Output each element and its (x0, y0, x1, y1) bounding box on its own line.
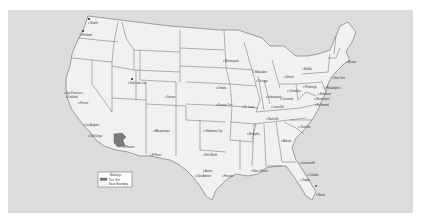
legend-swatch-test-site (100, 178, 107, 181)
legend-label-base-boundary: Base Boundary (109, 182, 129, 186)
city-label: Pittsburgh (305, 85, 317, 89)
city-label: Seattle (90, 21, 99, 25)
city-label: Austin (205, 169, 213, 173)
city-label: Columbus (289, 89, 301, 93)
city-label: Denver (167, 95, 175, 99)
city-label: Minneapolis (225, 59, 240, 63)
city-label: Salt Lake City (130, 81, 147, 85)
city-label: Tampa (302, 178, 310, 182)
city-label: San Diego (90, 134, 103, 138)
salt-lake-marker-icon (131, 78, 133, 80)
legend-label-test-site: Test Site (109, 178, 120, 182)
city-label: New Orleans (253, 169, 269, 173)
city-label: Atlanta (283, 139, 292, 143)
city-label: Albuquerque (155, 129, 170, 133)
city-label: St. Louis (244, 105, 255, 109)
city-label: Portland (82, 33, 92, 37)
city-label: Boston (348, 60, 357, 64)
city-label: Orlando (309, 173, 319, 177)
florida-marker-icon (315, 185, 317, 187)
portland-marker-icon (82, 30, 84, 32)
city-label: Chicago (258, 79, 268, 83)
city-label: Philadelphia (326, 86, 341, 90)
city-label: Indianapolis (268, 95, 283, 99)
city-label: Omaha (218, 86, 227, 90)
city-label: Jacksonville (301, 161, 316, 165)
city-label: Los Angeles (85, 123, 100, 127)
city-label: Milwaukee (255, 70, 268, 74)
city-label: Cincinnati (282, 97, 294, 101)
city-label: Miami (318, 193, 325, 197)
city-label: Kansas City (218, 103, 233, 107)
city-label: Louisville (273, 105, 284, 109)
city-label: Fresno (80, 101, 89, 105)
city-label: El Paso (152, 153, 161, 157)
legend-title: Markings (110, 173, 122, 177)
city-label: Charlotte (300, 125, 311, 129)
city-label: Oklahoma City (205, 129, 223, 133)
city-label: Nashville (268, 117, 279, 121)
us-map: SeattlePortlandSan FranciscoOaklandFresn… (8, 10, 413, 213)
legend-swatch-base-boundary (100, 183, 107, 186)
city-label: Buffalo (304, 67, 313, 71)
city-label: Baltimore (320, 92, 332, 96)
city-label: Detroit (286, 75, 294, 79)
city-label: San Francisco (66, 91, 83, 95)
map-canvas: SeattlePortlandSan FranciscoOaklandFresn… (8, 10, 413, 213)
city-label: Richmond (317, 103, 329, 107)
city-label: Washington (316, 97, 330, 101)
city-label: Houston (224, 174, 234, 178)
city-label: San Antonio (197, 174, 212, 178)
legend: Markings Test Site Base Boundary (98, 172, 132, 187)
seattle-marker-icon (88, 18, 90, 20)
city-label: Oakland (68, 95, 78, 99)
city-label: Fort Worth (205, 153, 218, 157)
city-label: New York (334, 76, 346, 80)
city-label: Memphis (249, 132, 260, 136)
city-label: Phoenix (125, 145, 135, 149)
